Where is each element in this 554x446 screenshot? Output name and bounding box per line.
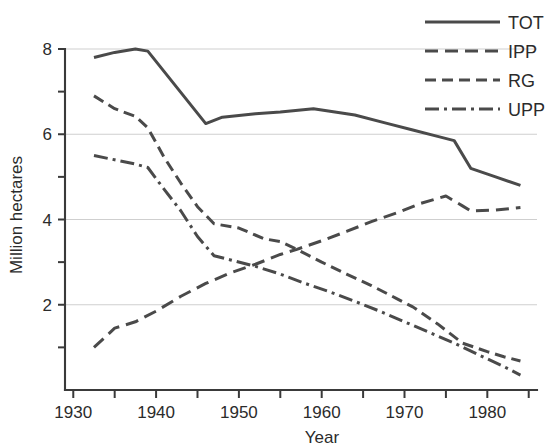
x-tick-label-1930: 1930 bbox=[54, 403, 92, 422]
series-line-tot bbox=[94, 49, 520, 185]
x-axis-title: Year bbox=[305, 428, 340, 446]
legend-label-rg: RG bbox=[508, 71, 535, 91]
x-tick-label-1950: 1950 bbox=[220, 403, 258, 422]
series-line-rg bbox=[94, 96, 520, 361]
x-tick-label-1980: 1980 bbox=[468, 403, 506, 422]
y-tick-label-4: 4 bbox=[43, 211, 52, 230]
chart-legend: TOTIPPRGUPP bbox=[425, 13, 545, 120]
series-line-ipp bbox=[94, 196, 520, 347]
y-tick-label-6: 6 bbox=[43, 125, 52, 144]
chart-container: 193019401950196019701980 2468 TOTIPPRGUP… bbox=[0, 0, 554, 446]
y-tick-label-8: 8 bbox=[43, 40, 52, 59]
y-tick-label-2: 2 bbox=[43, 296, 52, 315]
x-tick-label-1970: 1970 bbox=[386, 403, 424, 422]
gridlines bbox=[65, 49, 537, 305]
line-chart: 193019401950196019701980 2468 TOTIPPRGUP… bbox=[0, 0, 554, 446]
legend-label-tot: TOT bbox=[508, 13, 544, 33]
x-tick-label-1960: 1960 bbox=[303, 403, 341, 422]
series-line-upp bbox=[94, 156, 520, 376]
x-tick-labels: 193019401950196019701980 bbox=[54, 403, 506, 422]
y-axis-title: Million hectares bbox=[7, 156, 26, 274]
legend-label-upp: UPP bbox=[508, 100, 545, 120]
y-tick-labels: 2468 bbox=[43, 40, 52, 315]
data-series bbox=[94, 49, 520, 375]
legend-label-ipp: IPP bbox=[508, 42, 537, 62]
x-tick-label-1940: 1940 bbox=[137, 403, 175, 422]
